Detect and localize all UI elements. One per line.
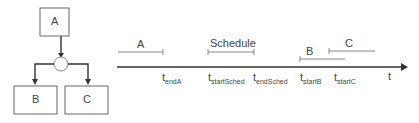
node-a-label: A [51, 15, 58, 27]
tick-start-sched: tstartSched [208, 71, 245, 83]
gateway-circle [54, 57, 68, 71]
arrow-down-icon [32, 79, 38, 85]
axis-label-t: t [388, 70, 391, 82]
diagram-canvas [0, 0, 419, 123]
node-c-label: C [83, 93, 91, 105]
interval-schedule-label: Schedule [210, 37, 256, 49]
interval-a-label: A [137, 38, 144, 50]
node-b-label: B [32, 93, 39, 105]
arrow-right-icon [401, 63, 408, 71]
arrow-down-icon [85, 79, 91, 85]
tick-end-a: tendA [162, 71, 181, 83]
interval-b-label: B [306, 45, 313, 57]
tick-start-c: tstartC [334, 71, 356, 83]
interval-c-label: C [345, 37, 353, 49]
tick-end-sched: tendSched [253, 71, 288, 83]
tick-start-b: tstartB [300, 71, 321, 83]
